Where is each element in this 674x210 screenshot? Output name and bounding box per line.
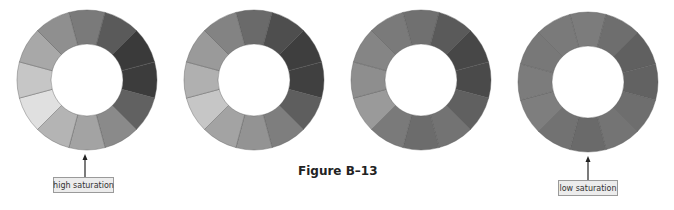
arrow-up-icon	[586, 156, 591, 180]
wheel-low-saturation	[518, 12, 658, 152]
low-saturation-label: low saturation	[558, 180, 618, 196]
wheels-group	[17, 10, 658, 152]
high-saturation-label: high saturation	[53, 177, 114, 193]
wheel-medium-low-saturation	[351, 10, 491, 150]
figure-caption: Figure B–13	[298, 164, 378, 178]
wheel-medium-high-saturation	[184, 10, 324, 150]
arrow-up-icon	[83, 154, 88, 177]
wheel-high-saturation	[17, 10, 157, 150]
